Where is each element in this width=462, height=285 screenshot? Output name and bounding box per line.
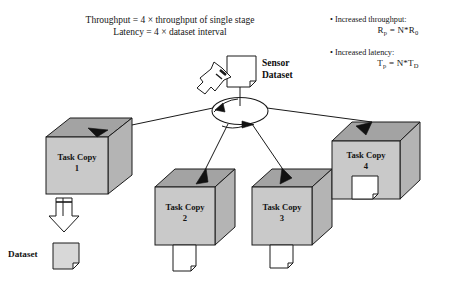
task-copy-3-line-2: 3 <box>252 213 312 224</box>
sensor-input-block-arrow <box>197 62 231 94</box>
task-copy-4-label: Task Copy 4 <box>332 150 400 171</box>
task-copy-1-label: Task Copy 1 <box>46 152 108 173</box>
sensor-dataset-card <box>227 56 256 87</box>
task-copy-4-line-1: Task Copy <box>332 150 400 161</box>
task-copy-2-line-2: 2 <box>155 213 215 224</box>
task-copy-2-line-1: Task Copy <box>155 202 215 213</box>
task-copy-3-dataset-card <box>270 245 293 268</box>
diagram-canvas: Throughput = 4 × throughput of single st… <box>0 0 462 285</box>
legend-dataset-card-icon <box>53 243 79 269</box>
diagram-vector-layer <box>0 0 462 285</box>
task-copy-2-label: Task Copy 2 <box>155 202 215 223</box>
task-copy-2-dataset-card <box>173 245 196 271</box>
legend-down-arrow-icon <box>49 198 79 232</box>
edge-to-task-copy-2 <box>206 124 228 168</box>
task-copy-3-label: Task Copy 3 <box>252 202 312 223</box>
edge-to-task-copy-3 <box>252 124 282 168</box>
task-copy-4-dataset-card <box>352 176 378 199</box>
task-copy-1-line-1: Task Copy <box>46 152 108 163</box>
task-copy-1-line-2: 1 <box>46 163 108 174</box>
task-copy-3-line-1: Task Copy <box>252 202 312 213</box>
hub-arc-lower <box>222 126 244 128</box>
legend-dataset-label: Dataset <box>8 249 38 259</box>
task-copy-4-line-2: 4 <box>332 161 400 172</box>
edge-to-task-copy-4 <box>267 108 372 122</box>
